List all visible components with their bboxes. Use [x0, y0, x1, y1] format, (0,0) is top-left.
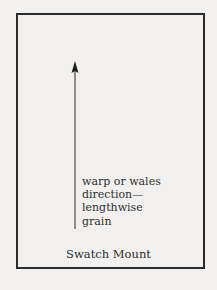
label-line: lengthwise [82, 201, 161, 214]
label-line: grain [82, 215, 161, 228]
grain-direction-label: warp or wales direction— lengthwise grai… [82, 175, 161, 228]
caption: Swatch Mount [0, 247, 217, 261]
label-line: direction— [82, 188, 161, 201]
label-line: warp or wales [82, 175, 161, 188]
